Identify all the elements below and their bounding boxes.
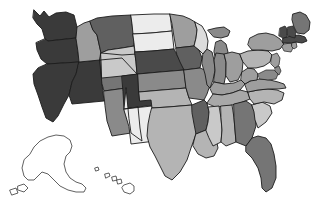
state-ND[interactable]: North Dakota: [131, 14, 172, 34]
state-OR[interactable]: Oregon: [36, 38, 79, 64]
state-IN[interactable]: Indiana: [214, 53, 226, 84]
us-states-choropleth: Washington Oregon California Nevada Idah…: [0, 0, 331, 216]
state-CT[interactable]: Connecticut: [282, 43, 293, 52]
state-WY[interactable]: Wyoming: [100, 46, 138, 78]
choropleth-map-figure: Washington Oregon California Nevada Idah…: [0, 0, 331, 216]
state-SD[interactable]: South Dakota: [133, 31, 174, 52]
